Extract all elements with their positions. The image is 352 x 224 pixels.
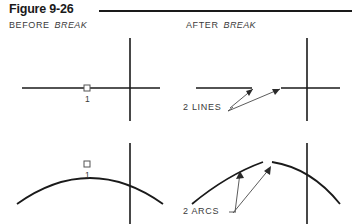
- before-line-point-label: 1: [85, 94, 90, 104]
- leader-arrowhead-arc-left: [236, 171, 244, 179]
- leader-arc-left: [235, 173, 240, 212]
- annotation-two-lines: 2 LINES: [183, 102, 221, 112]
- after-arc-segment-left: [192, 162, 263, 204]
- leader-arrowhead-line-left: [246, 89, 253, 96]
- before-line-pick-marker: [84, 85, 90, 91]
- figure-geometry-overlay: [0, 0, 352, 224]
- leader-line-right: [228, 89, 280, 111]
- before-arc-pick-marker: [84, 161, 90, 167]
- annotation-two-arcs: 2 ARCS: [183, 206, 219, 216]
- before-arc-point-label: 1: [85, 170, 90, 180]
- figure-container: Figure 9-26 BEFOREBREAK AFTERBREAK: [0, 0, 352, 224]
- before-arc: [17, 178, 163, 204]
- after-arc-segment-right: [272, 162, 340, 204]
